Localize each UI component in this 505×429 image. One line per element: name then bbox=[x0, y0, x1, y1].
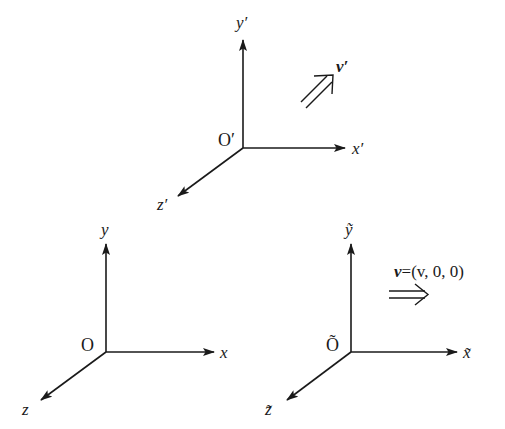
z-tilde-label: z̃ bbox=[264, 400, 273, 419]
velocity-double-arrow-icon bbox=[389, 284, 428, 305]
x-tilde-label: x̃ bbox=[462, 343, 471, 362]
y-prime-label: y′ bbox=[234, 13, 248, 32]
z-tilde-axis bbox=[287, 352, 351, 400]
y-tilde-label: ỹ bbox=[343, 220, 353, 239]
x-prime-label: x′ bbox=[351, 139, 364, 158]
z-prime-label: z′ bbox=[156, 195, 168, 214]
origin-label: O bbox=[81, 335, 94, 355]
coordinate-frames-diagram: y′ x′ z′ O′ v′ y x z O ỹ x̃ z̃ Õ bbox=[0, 0, 505, 429]
origin-prime-label: O′ bbox=[218, 130, 235, 150]
frame-tilde: ỹ x̃ z̃ Õ v=(v, 0, 0) bbox=[264, 220, 471, 419]
z-prime-axis bbox=[178, 148, 243, 196]
frame-lab: y x z O bbox=[21, 220, 228, 419]
z-label: z bbox=[21, 400, 29, 419]
velocity-label: v=(v, 0, 0) bbox=[394, 262, 464, 281]
y-label: y bbox=[99, 220, 109, 239]
z-axis bbox=[41, 352, 106, 400]
velocity-prime-double-arrow-icon bbox=[301, 75, 333, 108]
velocity-prime-label: v′ bbox=[336, 57, 348, 76]
origin-tilde-label: Õ bbox=[326, 334, 339, 355]
frame-primed: y′ x′ z′ O′ v′ bbox=[156, 13, 364, 214]
x-label: x bbox=[219, 343, 228, 362]
